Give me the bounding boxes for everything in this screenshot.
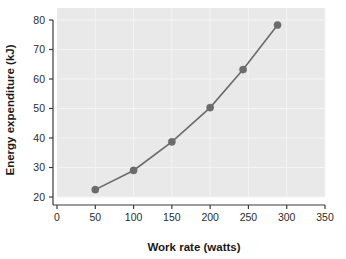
data-point-marker [274,21,281,28]
x-tick-label: 0 [54,211,60,223]
x-tick-label: 350 [316,211,334,223]
y-tick-label: 20 [33,191,45,203]
plot-panel [57,8,325,197]
y-tick-label: 40 [33,132,45,144]
x-axis-title: Work rate (watts) [147,241,240,253]
y-tick-label: 60 [33,73,45,85]
y-axis-title: Energy expenditure (kJ) [4,44,16,175]
y-tick-label: 70 [33,43,45,55]
y-axis-ticks: 20304050607080 [33,14,53,203]
x-tick-label: 150 [163,211,181,223]
y-tick-label: 80 [33,14,45,26]
line-chart-canvas: 050100150200250300350 20304050607080 Wor… [0,0,346,259]
x-tick-label: 300 [278,211,296,223]
chart-figure: 050100150200250300350 20304050607080 Wor… [0,0,346,259]
x-tick-label: 100 [125,211,143,223]
data-point-marker [207,104,214,111]
panel-background [57,8,325,197]
y-tick-label: 30 [33,161,45,173]
data-point-marker [239,66,246,73]
data-point-marker [168,138,175,145]
data-point-marker [92,186,99,193]
x-tick-label: 250 [240,211,258,223]
data-point-marker [130,167,137,174]
x-tick-label: 50 [89,211,101,223]
x-axis-ticks: 050100150200250300350 [54,205,334,223]
y-tick-label: 50 [33,102,45,114]
x-tick-label: 200 [201,211,219,223]
